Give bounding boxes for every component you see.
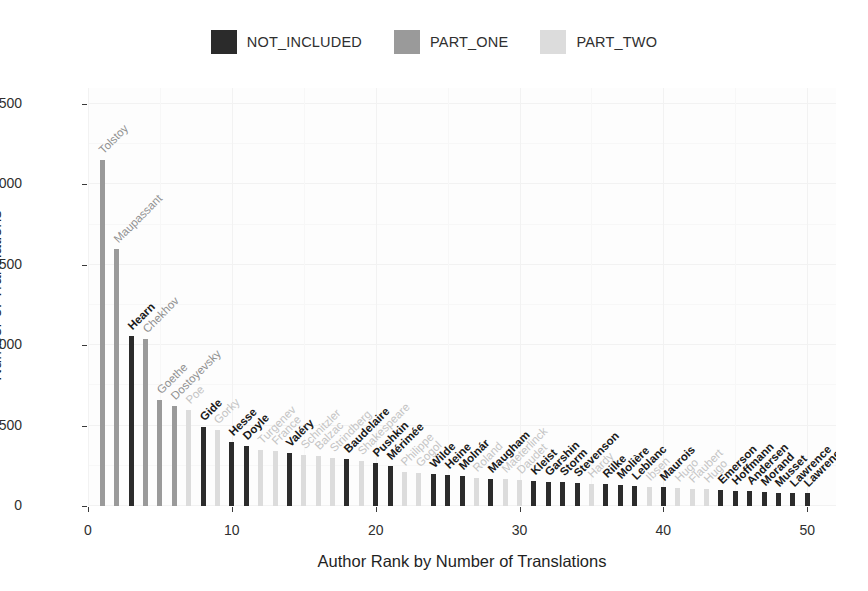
- bar[interactable]: [503, 479, 508, 506]
- bar[interactable]: [661, 487, 666, 506]
- y-tick-mark: [82, 426, 87, 427]
- bar[interactable]: [460, 476, 465, 506]
- bar[interactable]: [718, 490, 723, 506]
- gridline-horizontal: [88, 183, 836, 184]
- bar[interactable]: [546, 482, 551, 506]
- x-tick-label: 40: [643, 522, 683, 538]
- bar[interactable]: [416, 473, 421, 506]
- y-tick-label: 2000: [0, 175, 22, 191]
- gridline-horizontal-minor: [88, 224, 836, 225]
- gridline-horizontal: [88, 344, 836, 345]
- bar[interactable]: [675, 488, 680, 506]
- x-axis-title: Author Rank by Number of Translations: [88, 552, 836, 571]
- x-tick-mark: [807, 507, 808, 512]
- bar[interactable]: [618, 485, 623, 506]
- bar[interactable]: [402, 472, 407, 506]
- gridline-vertical-minor: [735, 88, 736, 506]
- chart-figure: NOT_INCLUDEDPART_ONEPART_TWO Number of T…: [0, 0, 868, 591]
- bar[interactable]: [560, 482, 565, 506]
- bar[interactable]: [129, 336, 134, 506]
- legend-entry[interactable]: PART_ONE: [394, 30, 508, 54]
- y-tick-mark: [82, 506, 87, 507]
- bar[interactable]: [805, 493, 810, 506]
- bar[interactable]: [143, 339, 148, 506]
- x-tick-mark: [520, 507, 521, 512]
- bar[interactable]: [704, 489, 709, 506]
- bar-label: Tolstoy: [97, 123, 131, 157]
- legend-entry[interactable]: NOT_INCLUDED: [211, 30, 362, 54]
- bar[interactable]: [445, 475, 450, 506]
- gridline-horizontal: [88, 425, 836, 426]
- bar[interactable]: [215, 430, 220, 506]
- x-tick-label: 20: [356, 522, 396, 538]
- bar[interactable]: [575, 483, 580, 506]
- y-tick-label: 1500: [0, 256, 22, 272]
- bar[interactable]: [647, 487, 652, 506]
- y-tick-label: 0: [0, 497, 22, 513]
- legend-swatch-part-two: [540, 30, 566, 54]
- bar[interactable]: [603, 484, 608, 506]
- bar[interactable]: [733, 491, 738, 506]
- y-tick-label: 2500: [0, 95, 22, 111]
- bar[interactable]: [100, 160, 105, 506]
- bar[interactable]: [244, 446, 249, 506]
- bar[interactable]: [186, 410, 191, 506]
- bar[interactable]: [258, 450, 263, 506]
- bar[interactable]: [762, 492, 767, 506]
- bar[interactable]: [114, 249, 119, 506]
- gridline-vertical: [663, 88, 664, 506]
- bar-label: Maupassant: [111, 192, 164, 245]
- bar[interactable]: [344, 459, 349, 506]
- bar[interactable]: [229, 442, 234, 506]
- bar[interactable]: [301, 455, 306, 506]
- x-tick-mark: [376, 507, 377, 512]
- bar[interactable]: [157, 400, 162, 506]
- bar[interactable]: [330, 458, 335, 506]
- gridline-horizontal: [88, 103, 836, 104]
- bar[interactable]: [589, 484, 594, 507]
- gridline-horizontal-minor: [88, 143, 836, 144]
- chart-legend: NOT_INCLUDEDPART_ONEPART_TWO: [0, 26, 868, 58]
- x-tick-label: 10: [212, 522, 252, 538]
- bar[interactable]: [359, 461, 364, 506]
- x-tick-label: 30: [500, 522, 540, 538]
- bar[interactable]: [474, 478, 479, 506]
- bar[interactable]: [316, 456, 321, 506]
- bar[interactable]: [632, 486, 637, 506]
- x-tick-mark: [88, 507, 89, 512]
- legend-entry[interactable]: PART_TWO: [540, 30, 657, 54]
- y-tick-label: 500: [0, 417, 22, 433]
- bar[interactable]: [388, 466, 393, 506]
- legend-label: PART_ONE: [430, 34, 508, 50]
- bar[interactable]: [531, 481, 536, 506]
- bar[interactable]: [488, 479, 493, 506]
- bar[interactable]: [747, 491, 752, 506]
- bar[interactable]: [172, 406, 177, 506]
- y-tick-mark: [82, 265, 87, 266]
- bar[interactable]: [273, 451, 278, 506]
- gridline-horizontal: [88, 264, 836, 265]
- x-tick-mark: [232, 507, 233, 512]
- bar[interactable]: [201, 427, 206, 506]
- bar[interactable]: [790, 493, 795, 506]
- bar[interactable]: [517, 480, 522, 506]
- gridline-horizontal-minor: [88, 304, 836, 305]
- bar[interactable]: [690, 489, 695, 506]
- gridline-vertical: [88, 88, 89, 506]
- plot-panel: TolstoyMaupassantHearnChekhovGoetheDosto…: [88, 88, 836, 506]
- y-tick-mark: [82, 104, 87, 105]
- x-tick-label: 0: [68, 522, 108, 538]
- bar[interactable]: [373, 463, 378, 506]
- gridline-vertical-minor: [591, 88, 592, 506]
- legend-swatch-part-one: [394, 30, 420, 54]
- gridline-vertical: [807, 88, 808, 506]
- y-tick-mark: [82, 345, 87, 346]
- legend-swatch-not-included: [211, 30, 237, 54]
- bar[interactable]: [431, 474, 436, 506]
- y-tick-label: 1000: [0, 336, 22, 352]
- x-tick-label: 50: [787, 522, 827, 538]
- bar[interactable]: [287, 453, 292, 506]
- bar[interactable]: [776, 493, 781, 507]
- y-tick-mark: [82, 184, 87, 185]
- legend-label: NOT_INCLUDED: [247, 34, 362, 50]
